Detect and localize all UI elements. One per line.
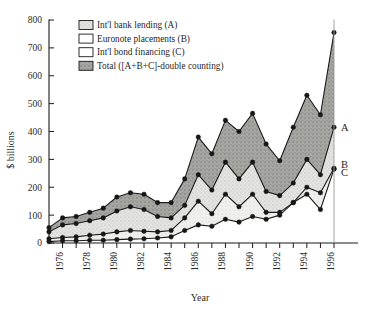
series-label-a: A [341, 122, 349, 133]
x-tick-label: 1996 [326, 252, 336, 271]
y-tick-label: 0 [37, 238, 42, 248]
legend-label: Total ([A+B+C]-double counting) [97, 61, 224, 72]
legend-label: Int'l bank lending (A) [97, 20, 177, 31]
x-tick-label: 1982 [136, 252, 146, 271]
chart-container: 0100200300400500600700800 19761978198019… [0, 0, 367, 309]
x-tick-label: 1992 [272, 252, 282, 271]
x-tick-label: 1984 [163, 252, 173, 271]
legend-label: Euronote placements (B) [97, 34, 190, 45]
legend-swatch [79, 21, 93, 30]
legend-label: Int'l bond financing (C) [97, 47, 185, 58]
chart-legend: Int'l bank lending (A)Euronote placement… [79, 20, 224, 72]
y-tick-label: 400 [28, 127, 43, 137]
y-tick-label: 200 [28, 183, 43, 193]
y-tick-label: 600 [28, 71, 43, 81]
y-tick-label: 700 [28, 43, 43, 53]
y-axis-ticks: 0100200300400500600700800 [28, 15, 54, 248]
y-tick-label: 800 [28, 15, 43, 25]
x-axis-title: Year [191, 292, 210, 303]
legend-swatch [79, 61, 93, 70]
x-tick-label: 1988 [217, 252, 227, 271]
legend-swatch [79, 34, 93, 43]
x-tick-label: 1994 [299, 252, 309, 271]
x-tick-label: 1976 [55, 252, 65, 271]
x-tick-label: 1990 [245, 252, 255, 271]
y-tick-label: 300 [28, 155, 43, 165]
series-label-c: C [341, 167, 348, 178]
y-tick-label: 100 [28, 211, 43, 221]
x-tick-label: 1980 [109, 252, 119, 271]
line-area-chart: 0100200300400500600700800 19761978198019… [0, 0, 367, 309]
x-tick-label: 1986 [190, 252, 200, 271]
y-tick-label: 500 [28, 99, 43, 109]
x-axis-ticks: 1976197819801982198419861988199019921994… [55, 243, 336, 271]
x-tick-label: 1978 [82, 252, 92, 271]
y-axis-title: $ billions [5, 131, 16, 169]
legend-swatch [79, 48, 93, 57]
series-end-labels: ABC [341, 122, 349, 178]
